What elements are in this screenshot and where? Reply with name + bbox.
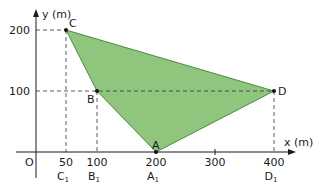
point-b-dot xyxy=(95,89,99,93)
y-axis-label: y (m) xyxy=(42,8,71,21)
x-axis-arrow-icon xyxy=(288,149,296,155)
point-c-label: C xyxy=(69,17,77,30)
origin-label: O xyxy=(25,156,34,169)
x-axis-label: x (m) xyxy=(284,136,313,149)
point-d-label: D xyxy=(278,85,286,98)
point-a-label: A xyxy=(152,139,160,152)
point-c-dot xyxy=(64,28,68,32)
label-c1: C1 xyxy=(57,170,69,184)
point-b-label: B xyxy=(87,93,95,106)
coordinate-diagram: y (m) x (m) O 200 100 50 100 200 300 400… xyxy=(0,0,318,187)
x-tick-50: 50 xyxy=(59,156,73,169)
label-a1: A1 xyxy=(147,170,159,184)
x-tick-100: 100 xyxy=(87,156,108,169)
y-axis-arrow-icon xyxy=(33,9,39,17)
label-b1: B1 xyxy=(88,170,100,184)
point-d-dot xyxy=(272,89,276,93)
y-tick-200: 200 xyxy=(9,24,30,37)
label-d1: D1 xyxy=(265,170,278,184)
x-tick-400: 400 xyxy=(264,156,285,169)
x-tick-200: 200 xyxy=(146,156,167,169)
x-tick-300: 300 xyxy=(205,156,226,169)
y-tick-100: 100 xyxy=(9,85,30,98)
